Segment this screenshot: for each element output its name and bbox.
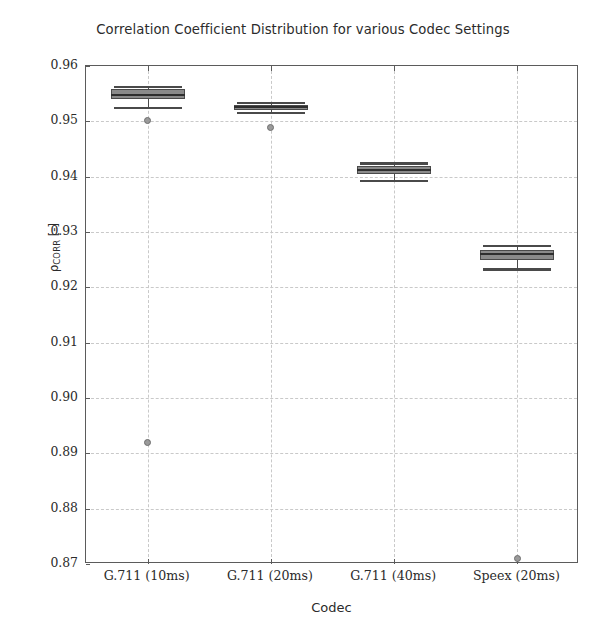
plot-area xyxy=(85,65,578,563)
y-axis-title-unit: [-] xyxy=(47,223,61,240)
boxplot-outlier xyxy=(514,555,521,562)
boxplot-box xyxy=(480,250,554,261)
x-tick-label: Speex (20ms) xyxy=(446,568,586,583)
y-tick-label: 0.96 xyxy=(22,57,78,72)
y-tick-label: 0.89 xyxy=(22,444,78,459)
y-axis-title: ρCORR [-] xyxy=(47,178,62,318)
y-axis-title-symbol: ρ xyxy=(47,265,61,272)
boxplot-series xyxy=(86,66,577,562)
boxplot-median xyxy=(480,253,554,255)
x-tick-label: G.711 (40ms) xyxy=(323,568,463,583)
boxplot-whisker-cap xyxy=(237,112,305,115)
y-axis-title-subscript: CORR xyxy=(52,240,62,265)
boxplot-whisker-cap xyxy=(360,162,428,165)
boxplot-whisker-cap xyxy=(483,245,551,248)
boxplot-outlier xyxy=(144,117,151,124)
x-tick-label: G.711 (20ms) xyxy=(200,568,340,583)
boxplot-outlier xyxy=(144,439,151,446)
y-tick-label: 0.90 xyxy=(22,389,78,404)
y-tick-mark xyxy=(86,564,90,565)
boxplot-outlier xyxy=(267,124,274,131)
chart-title: Correlation Coefficient Distribution for… xyxy=(0,22,606,37)
y-tick-label: 0.91 xyxy=(22,334,78,349)
y-tick-label: 0.87 xyxy=(22,555,78,570)
boxplot-median xyxy=(357,169,431,171)
boxplot-whisker-cap xyxy=(483,268,551,271)
boxplot-median xyxy=(234,106,308,108)
boxplot-whisker-cap xyxy=(114,107,182,110)
x-axis-title: Codec xyxy=(85,600,578,615)
boxplot-figure: Correlation Coefficient Distribution for… xyxy=(0,0,606,637)
boxplot-median xyxy=(111,94,185,96)
boxplot-whisker-cap xyxy=(114,86,182,89)
y-tick-label: 0.95 xyxy=(22,112,78,127)
y-tick-label: 0.88 xyxy=(22,500,78,515)
x-tick-label: G.711 (10ms) xyxy=(77,568,217,583)
boxplot-whisker-cap xyxy=(360,180,428,183)
